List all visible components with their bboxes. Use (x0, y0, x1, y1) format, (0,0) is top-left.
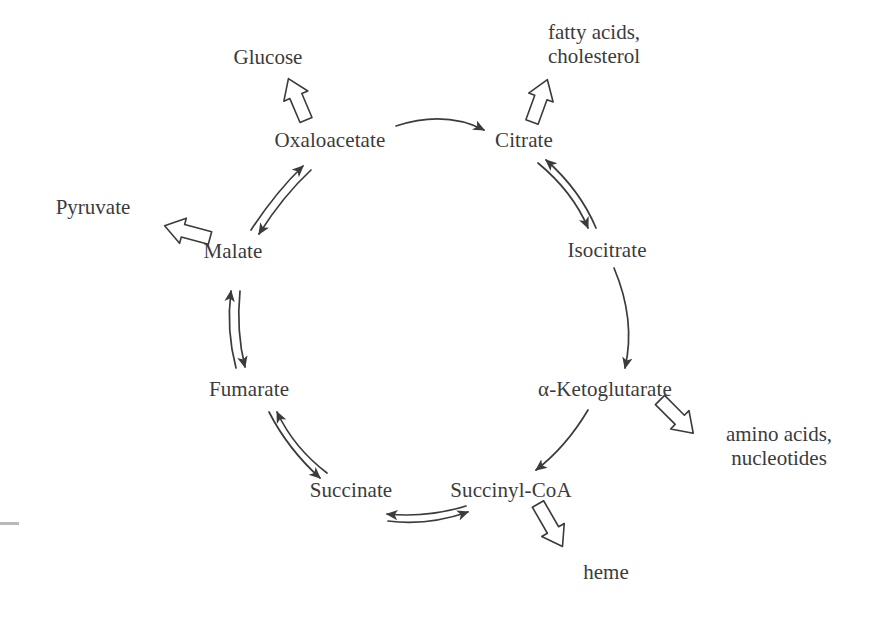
arrow-malate-to-oxaloacetate (251, 166, 311, 234)
block-arrow-citrate-to-fatty-acids (520, 75, 560, 126)
arrow-ketoglutarate-to-succinylcoa (536, 410, 588, 470)
node-label-citrate: Citrate (495, 129, 553, 152)
node-label-ketoglutarate: α-Ketoglutarate (538, 378, 672, 401)
product-label-heme: heme (583, 561, 628, 585)
arrow-oxaloacetate-to-citrate (396, 119, 484, 130)
node-label-isocitrate: Isocitrate (567, 239, 646, 262)
arrow-citrate-to-isocitrate (538, 160, 596, 228)
arrow-fumarate-to-malate (229, 291, 245, 368)
arrow-succinate-to-fumarate (269, 412, 327, 478)
page-edge-artifact (0, 522, 19, 525)
citric-acid-cycle-diagram: Oxaloacetate Citrate Isocitrate α-Ketogl… (0, 0, 890, 617)
node-label-fumarate: Fumarate (209, 378, 289, 401)
product-label-fatty-acids-cholesterol: fatty acids, cholesterol (548, 21, 640, 69)
product-label-glucose: Glucose (234, 46, 303, 70)
arrow-isocitrate-to-ketoglutarate (614, 268, 629, 368)
product-label-amino-acids-nucleotides: amino acids, nucleotides (726, 423, 832, 471)
diagram-arrows-layer (0, 0, 890, 617)
node-label-succinate: Succinate (310, 479, 393, 502)
node-label-oxaloacetate: Oxaloacetate (275, 129, 386, 152)
product-label-pyruvate: Pyruvate (56, 196, 131, 220)
node-label-succinyl-coa: Succinyl-CoA (450, 479, 571, 502)
node-label-malate: Malate (204, 240, 263, 263)
block-arrow-succinylcoa-to-heme (527, 498, 574, 553)
arrow-succinylcoa-to-succinate (387, 506, 468, 522)
block-arrow-oxaloacetate-to-glucose (276, 73, 318, 125)
